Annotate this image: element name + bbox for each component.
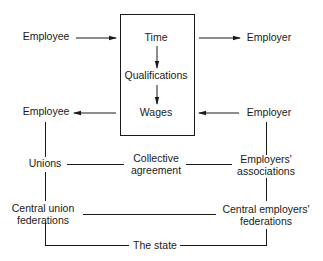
central-employers-line1: Central employers': [222, 204, 309, 216]
employer-bottom-label: Employer: [247, 107, 291, 119]
central-union-line1: Central union: [12, 203, 74, 215]
central-union-federations-label: Central union federations: [12, 203, 74, 226]
employers-associations-label: Employers' associations: [237, 154, 295, 177]
step-time: Time: [145, 32, 168, 44]
collective-agreement-label: Collective agreement: [131, 153, 181, 176]
central-employers-federations-label: Central employers' federations: [222, 204, 309, 227]
employers-associations-line2: associations: [237, 165, 295, 177]
central-employers-line2: federations: [222, 215, 309, 227]
collective-agreement-line1: Collective: [131, 153, 181, 165]
employee-bottom-label: Employee: [23, 106, 70, 118]
employer-top-label: Employer: [247, 32, 291, 44]
employers-associations-line1: Employers': [237, 154, 295, 166]
employee-top-label: Employee: [23, 31, 70, 43]
collective-agreement-line2: agreement: [131, 164, 181, 176]
step-wages: Wages: [140, 107, 172, 119]
unions-label: Unions: [29, 158, 62, 170]
step-qualifications: Qualifications: [124, 70, 187, 82]
the-state-label: The state: [133, 240, 177, 252]
central-union-line2: federations: [12, 214, 74, 226]
